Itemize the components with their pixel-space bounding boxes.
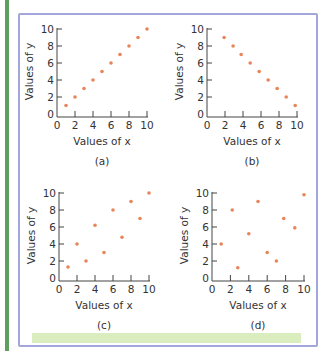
x-tick-label: 4	[245, 283, 252, 295]
x-tick-label: 2	[227, 283, 234, 295]
y-tick-label: 6	[202, 221, 209, 233]
x-tick-label: 8	[282, 283, 289, 295]
y-tick-label: 2	[202, 255, 209, 267]
x-tick-label: 10	[297, 283, 310, 295]
data-point	[230, 208, 234, 212]
y-axis-label: Values of y	[178, 207, 190, 264]
chart-caption: (d)	[251, 319, 266, 331]
scatter-plot-d: 02468100246810Values of xValues of y(d)	[0, 0, 329, 351]
y-tick-label: 10	[196, 187, 209, 199]
data-point	[247, 232, 251, 236]
x-tick-label: 0	[209, 283, 216, 295]
data-point	[282, 217, 286, 221]
y-tick-label: 8	[202, 204, 209, 216]
x-tick-label: 6	[264, 283, 271, 295]
data-point	[219, 242, 223, 246]
data-point	[236, 266, 240, 270]
data-point	[265, 251, 269, 255]
data-point	[275, 259, 279, 263]
y-tick-label: 4	[202, 238, 209, 250]
data-point	[293, 226, 297, 230]
data-point	[256, 200, 260, 204]
x-axis-label: Values of x	[229, 299, 286, 311]
data-point	[302, 193, 306, 197]
